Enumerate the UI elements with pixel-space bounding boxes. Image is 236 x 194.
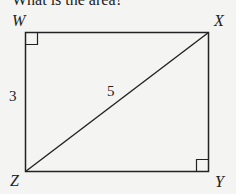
vertex-label-z: Z <box>10 172 20 189</box>
diagonal-length-label: 5 <box>107 83 115 99</box>
vertex-label-y: Y <box>215 173 226 190</box>
vertex-label-x: X <box>213 12 225 29</box>
right-angle-marker-y <box>197 160 209 172</box>
side-length-label: 3 <box>9 88 17 104</box>
diagonal-zx <box>26 33 209 172</box>
vertex-label-w: W <box>12 12 27 29</box>
rectangle-diagram: W X Y Z 3 5 <box>0 0 236 194</box>
right-angle-marker-w <box>26 33 38 45</box>
